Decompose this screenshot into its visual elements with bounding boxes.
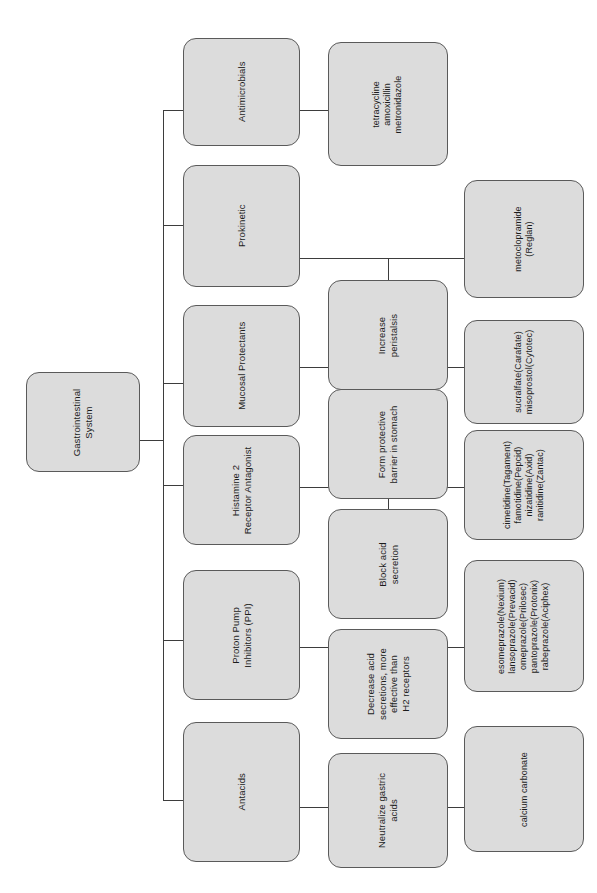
- node-category-mucosal-protectants-label: Mucosal Protectants: [236, 322, 248, 410]
- diagram-canvas: Gastrointestinal System Antimicrobials P…: [0, 0, 597, 893]
- node-mechanism-block-acid-secretion-label: Block acid secretion: [377, 542, 400, 586]
- connector-spine: [163, 110, 164, 800]
- node-root-label: Gastrointestinal System: [71, 388, 94, 456]
- node-category-proton-pump-inhibitors[interactable]: Proton Pump Inhibitors (PPI): [183, 570, 300, 700]
- connector-root-stem: [140, 440, 164, 441]
- node-root-gastrointestinal-system[interactable]: Gastrointestinal System: [26, 372, 140, 472]
- connector-spine-to-mucosal: [163, 383, 183, 384]
- node-mechanism-decrease-acid-secretions[interactable]: Decrease acid secretions, more effective…: [328, 629, 448, 739]
- connector-spine-to-antimicrobials: [163, 110, 183, 111]
- node-category-histamine-2-receptor-antagonist-label: Histamine 2 Receptor Antagonist: [230, 446, 253, 533]
- node-category-mucosal-protectants[interactable]: Mucosal Protectants: [183, 305, 300, 427]
- node-category-histamine-2-receptor-antagonist[interactable]: Histamine 2 Receptor Antagonist: [183, 435, 300, 545]
- connector-prokinetic-to-mechanism: [388, 258, 389, 280]
- node-category-proton-pump-inhibitors-label: Proton Pump Inhibitors (PPI): [230, 603, 253, 667]
- connector-prokinetic-row: [300, 258, 464, 259]
- node-category-antacids[interactable]: Antacids: [183, 722, 300, 862]
- node-drugs-mucosal-protectants-label: sucralfate(Carafate) misoprostol(Cytotec…: [513, 330, 535, 415]
- connector-spine-to-histamine: [163, 485, 183, 486]
- node-mechanism-form-protective-barrier[interactable]: Form protective barrier in stomach: [328, 389, 448, 499]
- connector-spine-to-prokinetic: [163, 225, 183, 226]
- node-category-prokinetic-label: Prokinetic: [236, 205, 248, 248]
- node-mechanism-decrease-acid-secretions-label: Decrease acid secretions, more effective…: [365, 648, 411, 720]
- node-drugs-histamine-2-label: cimetidine(Tagament) famotidine(Pepcid) …: [502, 441, 546, 529]
- node-drugs-prokinetic-label: metoclopramide (Reglan): [513, 206, 535, 271]
- node-mechanism-neutralize-gastric-acids-label: Neutralize gastric acids: [376, 773, 399, 848]
- node-drugs-antimicrobials-label: tetracycline amoxicillin metronidazole: [372, 75, 405, 133]
- node-drugs-antacids[interactable]: calcium carbonate: [464, 726, 584, 852]
- node-drugs-prokinetic[interactable]: metoclopramide (Reglan): [464, 180, 584, 298]
- node-mechanism-form-protective-barrier-label: Form protective barrier in stomach: [376, 405, 399, 483]
- node-category-prokinetic[interactable]: Prokinetic: [183, 165, 300, 287]
- node-drugs-antimicrobials[interactable]: tetracycline amoxicillin metronidazole: [328, 42, 448, 166]
- node-drugs-antacids-label: calcium carbonate: [519, 752, 530, 827]
- node-category-antacids-label: Antacids: [236, 773, 248, 810]
- node-mechanism-increase-peristalsis-label: Increase peristalsis: [377, 313, 400, 356]
- node-drugs-proton-pump-inhibitors-label: esomeprazole(Nexium) lansoprazole(Prevac…: [496, 578, 551, 673]
- node-mechanism-neutralize-gastric-acids[interactable]: Neutralize gastric acids: [328, 753, 448, 868]
- node-drugs-histamine-2[interactable]: cimetidine(Tagament) famotidine(Pepcid) …: [464, 430, 584, 540]
- connector-spine-to-antacids: [163, 800, 183, 801]
- connector-antimicrobials-to-drugs: [300, 110, 328, 111]
- node-category-antimicrobials-label: Antimicrobials: [236, 62, 248, 123]
- node-mechanism-block-acid-secretion[interactable]: Block acid secretion: [328, 509, 448, 619]
- connector-spine-to-ppi: [163, 640, 183, 641]
- node-drugs-proton-pump-inhibitors[interactable]: esomeprazole(Nexium) lansoprazole(Prevac…: [464, 560, 584, 692]
- node-drugs-mucosal-protectants[interactable]: sucralfate(Carafate) misoprostol(Cytotec…: [464, 320, 584, 424]
- node-mechanism-increase-peristalsis[interactable]: Increase peristalsis: [328, 280, 448, 390]
- node-category-antimicrobials[interactable]: Antimicrobials: [183, 38, 300, 146]
